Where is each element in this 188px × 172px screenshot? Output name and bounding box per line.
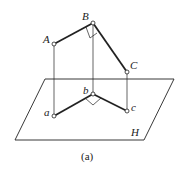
point-b — [91, 92, 95, 96]
label-c: c — [131, 101, 136, 113]
line-bc-proj — [93, 94, 127, 111]
point-a — [52, 114, 56, 118]
label-C: C — [130, 59, 138, 71]
label-b: b — [83, 84, 89, 96]
point-A — [52, 42, 56, 46]
label-plane-h: H — [130, 126, 140, 138]
label-B: B — [82, 10, 89, 22]
line-bc — [93, 23, 127, 72]
line-ab-proj — [54, 94, 93, 116]
label-a: a — [44, 106, 50, 118]
point-B — [91, 21, 95, 25]
point-C — [125, 70, 129, 74]
projection-diagram: A B C a b c H (a) — [0, 0, 188, 172]
right-angle-mark-b-proj — [85, 98, 101, 105]
point-c — [125, 109, 129, 113]
plane-h — [15, 79, 174, 140]
line-ab — [54, 23, 93, 44]
right-angle-mark-b — [86, 27, 97, 38]
figure-caption: (a) — [81, 150, 94, 163]
label-A: A — [42, 33, 50, 45]
